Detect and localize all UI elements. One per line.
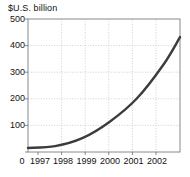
x-tick-label-1998: 1998 [53, 156, 73, 166]
x-tick-label-origin: 0 [19, 156, 24, 166]
y-tick-label-400: 400 [1, 41, 25, 50]
chart-plot-area [0, 0, 190, 177]
plot-background [28, 19, 180, 152]
x-axis-labels: 0 1997 1998 1999 2000 2001 2002 [0, 156, 190, 170]
x-tick-label-1997: 1997 [30, 156, 50, 166]
y-tick-label-200: 200 [1, 94, 25, 103]
y-tick-label-500: 500 [1, 15, 25, 24]
chart-container: $U.S. billion [0, 0, 190, 177]
x-tick-label-2002: 2002 [147, 156, 167, 166]
y-tick-label-300: 300 [1, 68, 25, 77]
y-tick-label-100: 100 [1, 121, 25, 130]
x-tick-label-2000: 2000 [100, 156, 120, 166]
x-tick-label-1999: 1999 [76, 156, 96, 166]
y-axis-labels: 500 400 300 200 100 [0, 0, 25, 177]
x-tick-label-2001: 2001 [123, 156, 143, 166]
